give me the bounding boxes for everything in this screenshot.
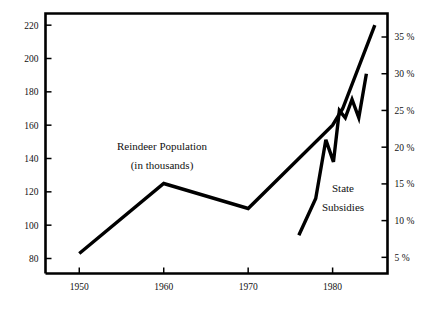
bottom-axis-tick-label: 1980 bbox=[323, 282, 342, 292]
chart-canvas: 80100120140160180200220 5 %10 %15 %20 %2… bbox=[0, 0, 435, 309]
left-axis-tick-label: 180 bbox=[24, 87, 39, 97]
annotation-state-subsidies: State Subsidies bbox=[322, 182, 364, 213]
right-axis-tick-label: 10 % bbox=[395, 216, 415, 226]
annotation-population-line1: Reindeer Population bbox=[117, 140, 208, 152]
left-axis-tick-label: 220 bbox=[24, 21, 39, 31]
bottom-axis-tick-label: 1960 bbox=[154, 282, 173, 292]
right-axis-tick-label: 25 % bbox=[395, 106, 415, 116]
annotation-subsidies-line1: State bbox=[332, 182, 354, 194]
annotation-subsidies-line2: Subsidies bbox=[322, 201, 364, 213]
right-axis-tick-label: 35 % bbox=[395, 32, 415, 42]
right-axis-tick-label: 20 % bbox=[395, 143, 415, 153]
bottom-axis-tick-labels: 1950196019701980 bbox=[70, 282, 343, 292]
left-axis-tick-label: 200 bbox=[24, 54, 39, 64]
right-axis-tick-label: 15 % bbox=[395, 179, 415, 189]
annotation-population-line2: (in thousands) bbox=[131, 159, 194, 172]
annotation-reindeer-population: Reindeer Population (in thousands) bbox=[117, 140, 208, 172]
left-axis-tick-label: 160 bbox=[24, 121, 39, 131]
right-axis-tick-label: 5 % bbox=[395, 253, 410, 263]
left-axis-tick-label: 80 bbox=[29, 254, 39, 264]
chart-figure: 80100120140160180200220 5 %10 %15 %20 %2… bbox=[0, 0, 435, 309]
bottom-axis-tick-label: 1970 bbox=[239, 282, 258, 292]
bottom-axis-tick-label: 1950 bbox=[70, 282, 89, 292]
right-axis-tick-label: 30 % bbox=[395, 69, 415, 79]
left-axis-tick-label: 140 bbox=[24, 154, 39, 164]
left-axis-tick-label: 120 bbox=[24, 187, 39, 197]
right-axis-tick-labels: 5 %10 %15 %20 %25 %30 %35 % bbox=[395, 32, 415, 262]
left-axis-tick-labels: 80100120140160180200220 bbox=[24, 21, 39, 264]
left-axis-tick-label: 100 bbox=[24, 221, 39, 231]
